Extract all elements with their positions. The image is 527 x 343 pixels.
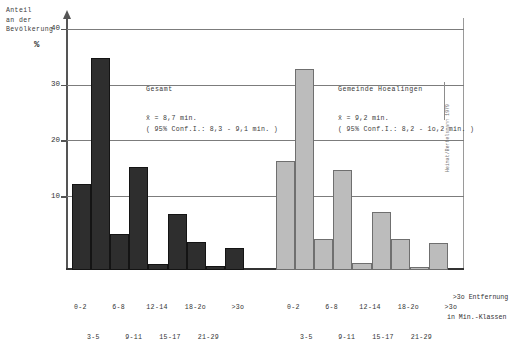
bar [206,266,225,270]
tick-30 [61,85,67,86]
callout-title-gesamt: Gesamt [146,84,278,95]
bar [429,243,448,270]
bar-group-gemeinde [276,36,448,270]
bar-group-gesamt [72,36,244,270]
callout-mean-gesamt: x̄ = 8,7 min. [146,113,278,124]
tick-10 [61,196,67,197]
bar [148,264,167,270]
bar [410,267,429,270]
tick-20 [61,140,67,141]
bar [333,170,352,270]
bar [72,184,91,270]
bar [91,58,110,270]
bar [225,248,244,270]
bar [129,167,148,270]
source-credit: Heimat/Bertelsmann 1979 [445,104,450,172]
callout-mean-gemeinde: x̄ = 9,2 min. [338,113,474,124]
bar [391,239,410,270]
y-axis-line [66,18,68,270]
callout-title-gemeinde: Gemeinde Hoealingen [338,84,474,95]
x-labels-row1-right: 0-2 6-8 12-14 18-2o >3o [287,303,457,313]
callout-gemeinde: Gemeinde Hoealingen x̄ = 9,2 min. ( 95% … [338,84,474,135]
x-axis-labels-left: 0-2 6-8 12-14 18-2o >3o 3-5 9-11 15-17 2… [74,283,244,343]
plot-area: 10 20 30 40 [66,18,464,270]
x-axis-title-line1: >3o Entfernung [453,294,508,301]
bar [187,242,206,270]
y-tick-label-40: 40 [40,24,60,32]
bar [168,214,187,270]
panel-gemeinde [276,36,448,270]
x-axis-title: >3o Entfernung in Min.-Klassen [437,283,508,343]
x-labels-row2-right: 3-5 9-11 15-17 21-29 [300,333,457,343]
bar [276,161,295,270]
y-axis-unit-label: % [34,40,39,50]
x-labels-row2-left: 3-5 9-11 15-17 21-29 [87,333,244,343]
bar [372,212,391,271]
callout-gesamt: Gesamt x̄ = 8,7 min. ( 95% Conf.I.: 8,3 … [146,84,278,135]
bar [295,69,314,270]
plot-right-edge [463,18,464,270]
x-axis-labels-right: 0-2 6-8 12-14 18-2o >3o 3-5 9-11 15-17 2… [287,283,457,343]
y-tick-label-10: 10 [40,192,60,200]
panel-gesamt [72,36,244,270]
y-tick-label-30: 30 [40,80,60,88]
x-labels-row1-left: 0-2 6-8 12-14 18-2o >3o [74,303,244,313]
y-axis-arrow-icon [63,10,71,19]
callout-ci-gesamt: ( 95% Conf.I.: 8,3 - 9,1 min. ) [146,124,278,135]
bar [352,263,371,270]
y-tick-label-20: 20 [40,136,60,144]
tick-40 [61,29,67,30]
bar [314,239,333,270]
bar [110,234,129,270]
gridline-40 [66,29,464,30]
x-axis-title-line2: in Min.-Klassen [447,313,508,323]
callout-ci-gemeinde: ( 95% Conf.I.: 8,2 - 1o,2 min. ) [338,124,474,135]
